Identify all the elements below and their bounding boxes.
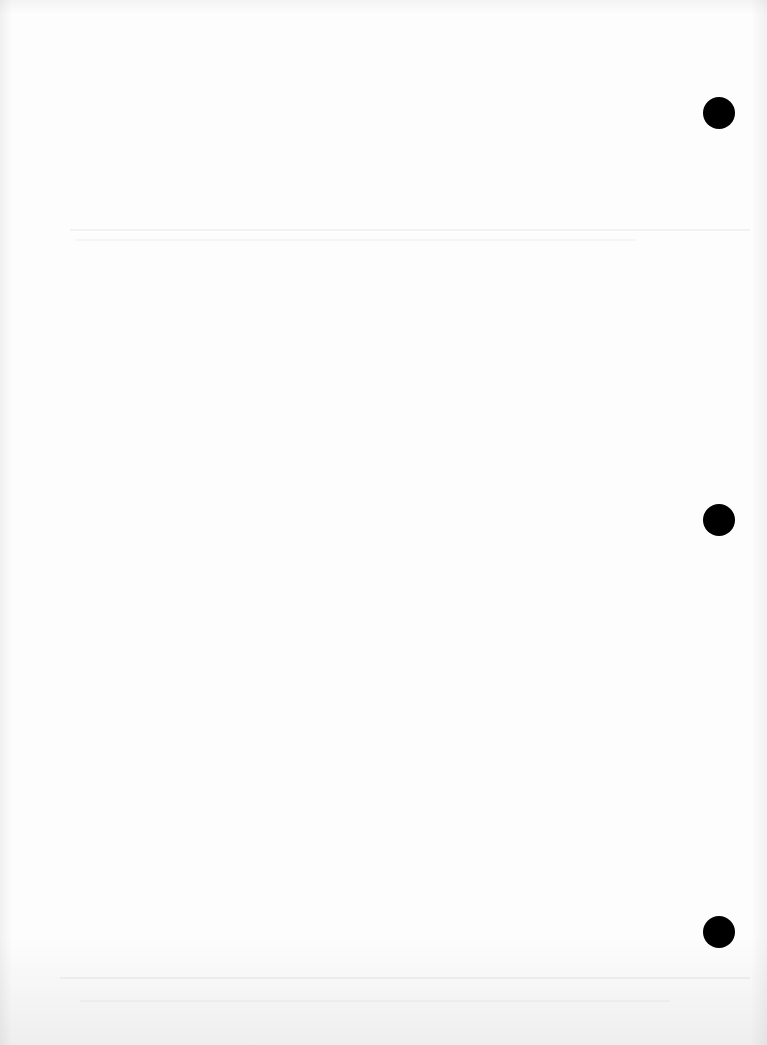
bleed-through-line: [70, 229, 750, 231]
hole-punch-middle: [703, 504, 735, 536]
blank-page: [0, 0, 767, 1045]
bleed-through-line: [80, 1000, 670, 1002]
hole-punch-top: [703, 97, 735, 129]
hole-punch-bottom: [703, 916, 735, 948]
bleed-through-line: [60, 977, 750, 979]
bleed-through-line: [75, 239, 635, 241]
